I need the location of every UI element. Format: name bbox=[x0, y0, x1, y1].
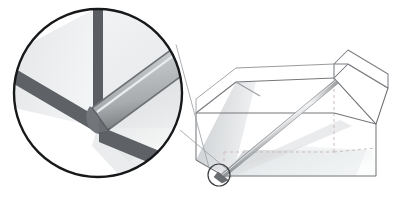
illustration-canvas: Rod resting in an open box with magnifie… bbox=[0, 0, 399, 197]
magnifier-circle[interactable] bbox=[14, 0, 214, 186]
illustration-svg bbox=[0, 0, 399, 197]
box-flap-open bbox=[334, 50, 388, 124]
